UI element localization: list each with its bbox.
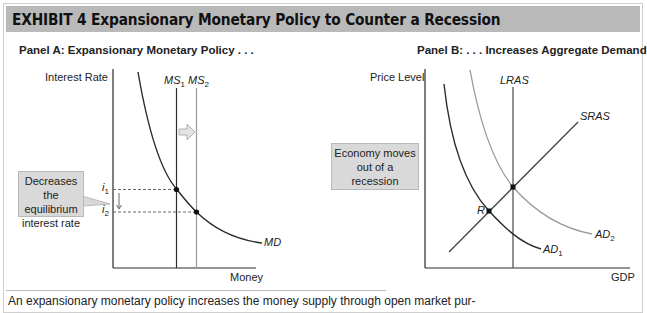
- ad1-label-sub: 1: [558, 249, 562, 258]
- ms1-label-text: MS: [164, 74, 181, 86]
- callout-economy-recovers: Economy moves out of a recession: [331, 143, 419, 190]
- ad1-label-text: AD: [543, 243, 558, 255]
- panel-b-x-axis-label: GDP: [611, 271, 635, 283]
- panel-a-x-axis-label: Money: [230, 271, 263, 283]
- ad2-label-text: AD: [595, 228, 610, 240]
- caption-divider: [6, 290, 386, 291]
- ms2-label-sub: 2: [205, 80, 209, 89]
- ms2-label: MS2: [188, 74, 209, 89]
- ad2-label: AD2: [595, 228, 615, 243]
- equilibrium-point-r: [487, 209, 492, 214]
- ad1-label: AD1: [543, 243, 563, 258]
- ms2-label-text: MS: [188, 74, 205, 86]
- decrease-arrow-icon: [117, 193, 122, 209]
- ad1-curve: [444, 84, 541, 249]
- exhibit-caption: An expansionary monetary policy increase…: [8, 294, 476, 308]
- i2-label-sub: 2: [104, 209, 108, 218]
- r-label: R: [477, 204, 485, 216]
- panel-a-axes: [113, 69, 256, 268]
- panel-b-y-axis-label: Price Level: [370, 71, 424, 83]
- equilibrium-point-i1: [174, 187, 179, 192]
- md-curve: [138, 72, 262, 243]
- ms1-label-sub: 1: [181, 80, 185, 89]
- shift-right-arrow-icon: [179, 124, 195, 140]
- panel-a-y-axis-label: Interest Rate: [45, 71, 108, 83]
- ad2-label-sub: 2: [610, 234, 614, 243]
- callout-decreases-rate: Decreases the equilibrium interest rate: [18, 171, 84, 217]
- ms1-label: MS1: [164, 74, 185, 89]
- lras-label: LRAS: [500, 74, 529, 86]
- i1-label-sub: 1: [104, 187, 108, 196]
- md-label: MD: [264, 236, 281, 248]
- equilibrium-point-new: [511, 185, 516, 190]
- i1-label: i1: [102, 181, 109, 196]
- equilibrium-point-i2: [194, 209, 199, 214]
- sras-label: SRAS: [580, 110, 610, 122]
- i2-label: i2: [102, 203, 109, 218]
